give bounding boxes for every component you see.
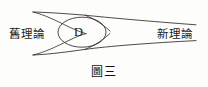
left-theory-label: 舊理論	[9, 29, 46, 41]
overlap-region-label: D	[74, 26, 83, 39]
lens-lower-arc-icon	[33, 41, 196, 55]
figure-caption: 圖三	[0, 62, 208, 79]
right-theory-label: 新理論	[157, 29, 194, 41]
lens-upper-arc-icon	[33, 12, 196, 25]
figure-container: 舊理論 新理論 D 圖三	[0, 0, 208, 87]
